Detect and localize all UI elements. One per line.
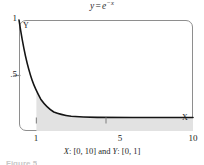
chart-title-exponent: −x: [106, 0, 114, 6]
range-caption-x-value: : [0, 10] and: [69, 146, 113, 156]
xtick-label-5: 5: [114, 133, 126, 143]
shaded-area-under-curve: [36, 90, 193, 131]
y-axis-name: Y: [23, 21, 29, 30]
range-caption-y-value: : [0, 1]: [117, 146, 140, 156]
figure-container: y=e−x 1 .5 1 5 10 Y X X: [0, 10] and Y: …: [0, 0, 204, 165]
xtick-label-10: 10: [185, 133, 201, 143]
chart-title-operator: =: [94, 1, 102, 11]
plot-canvas: [19, 20, 193, 131]
x-axis-name: X: [182, 113, 188, 122]
ytick-label-half: .5: [1, 69, 17, 79]
figure-caption-cropped: Figure 5: [6, 159, 37, 165]
xtick-label-1: 1: [30, 133, 42, 143]
chart-title: y=e−x: [0, 1, 204, 11]
ytick-label-1: 1: [5, 13, 17, 23]
range-caption: X: [0, 10] and Y: [0, 1]: [0, 146, 204, 156]
exponential-decay-curve: [19, 20, 193, 118]
